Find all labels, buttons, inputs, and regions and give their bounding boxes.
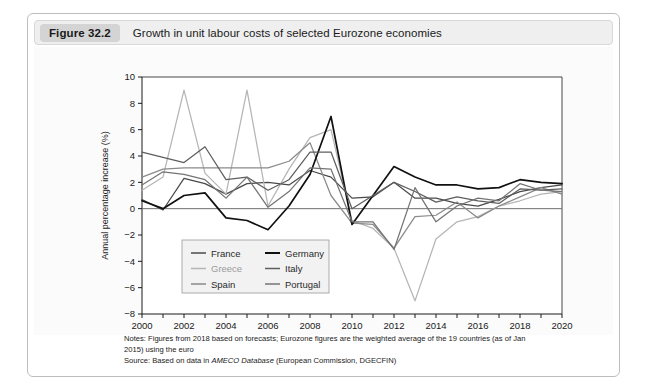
- legend-label-spain: Spain: [211, 279, 235, 290]
- x-axis-tick-label: 2020: [551, 320, 572, 331]
- x-axis-tick-label: 2016: [467, 320, 488, 331]
- y-axis-tick-label: 8: [130, 98, 135, 109]
- notes-line-2: 2015) using the euro: [124, 345, 594, 356]
- x-axis-tick-label: 2014: [425, 320, 446, 331]
- legend-label-italy: Italy: [285, 263, 303, 274]
- chart-legend: FranceGermanyGreeceItalySpainPortugal: [182, 240, 329, 293]
- x-axis-tick-label: 2008: [299, 320, 320, 331]
- figure-title-bar: Figure 32.2 Growth in unit labour costs …: [34, 20, 613, 45]
- y-axis-title: Annual percentage increase (%): [100, 131, 110, 260]
- y-axis-tick-label: −2: [124, 229, 135, 240]
- y-axis-tick-label: 10: [124, 71, 135, 82]
- legend-label-france: France: [211, 248, 241, 259]
- y-axis-tick-label: 0: [130, 203, 135, 214]
- source-line: Source: Based on data in AMECO Database …: [124, 356, 594, 367]
- figure-number: Figure 32.2: [40, 24, 120, 42]
- notes-line-1: Notes: Figures from 2018 based on foreca…: [124, 334, 594, 345]
- y-axis-tick-label: 6: [130, 124, 135, 135]
- figure-container: Figure 32.2 Growth in unit labour costs …: [27, 13, 620, 377]
- x-axis-tick-label: 2018: [509, 320, 530, 331]
- chart-plot-area: −8−6−4−202468102000200220042006200820102…: [34, 47, 613, 335]
- legend-label-germany: Germany: [285, 248, 324, 259]
- y-axis-tick-label: −6: [124, 282, 135, 293]
- legend-label-greece: Greece: [211, 263, 242, 274]
- y-axis-tick-label: −4: [124, 256, 135, 267]
- source-prefix: Source: Based on data in: [124, 356, 211, 365]
- x-axis-tick-label: 2000: [131, 320, 152, 331]
- x-axis-tick-label: 2002: [173, 320, 194, 331]
- x-axis-tick-label: 2004: [215, 320, 236, 331]
- legend-label-portugal: Portugal: [285, 279, 320, 290]
- x-axis-tick-label: 2006: [257, 320, 278, 331]
- source-suffix: (European Commission, DGECFIN): [274, 356, 396, 365]
- y-axis-tick-label: 2: [130, 177, 135, 188]
- line-chart: −8−6−4−202468102000200220042006200820102…: [34, 47, 613, 335]
- figure-notes: Notes: Figures from 2018 based on foreca…: [124, 334, 594, 366]
- figure-caption: Growth in unit labour costs of selected …: [133, 27, 442, 39]
- x-axis-tick-label: 2012: [383, 320, 404, 331]
- x-axis-tick-label: 2010: [341, 320, 362, 331]
- y-axis-tick-label: −8: [124, 308, 135, 319]
- source-database-name: AMECO Database: [211, 356, 273, 365]
- y-axis-tick-label: 4: [130, 150, 135, 161]
